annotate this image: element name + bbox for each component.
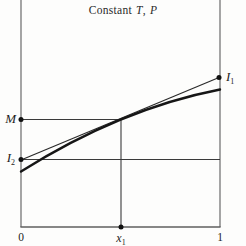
figure-title: ConstantT,P xyxy=(0,4,246,16)
x1-axis-point-dot xyxy=(119,225,124,230)
label-I1: I1 xyxy=(226,70,234,86)
i2-intercept-point-dot xyxy=(19,157,24,162)
label-I2-sub: 2 xyxy=(11,158,15,167)
intercept-method-figure: ConstantT,P M I2 I1 0 x1 1 xyxy=(0,0,246,246)
title-P: P xyxy=(150,4,157,16)
diagram-canvas xyxy=(0,0,246,246)
title-constant: Constant xyxy=(89,4,132,16)
i1-intercept-point-dot xyxy=(217,75,222,80)
label-x-zero: 0 xyxy=(14,232,28,244)
m-point-dot xyxy=(19,117,24,122)
label-M: M xyxy=(0,112,16,125)
label-I1-sub: 1 xyxy=(230,77,234,86)
label-I2: I2 xyxy=(0,151,15,167)
label-x1-sub: 1 xyxy=(122,238,126,246)
label-x-one: 1 xyxy=(213,232,227,244)
label-x1: x1 xyxy=(108,232,134,246)
title-T: T xyxy=(136,4,143,16)
title-comma: , xyxy=(143,4,146,16)
